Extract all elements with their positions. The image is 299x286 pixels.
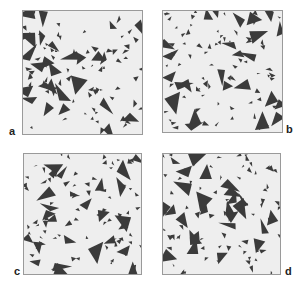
panel-label-a: a: [9, 126, 15, 137]
panel-label-b: b: [286, 124, 293, 135]
random-triangles-d: [163, 154, 280, 274]
panel-c: [23, 153, 142, 275]
panel-b: [162, 10, 283, 133]
panel-d: [162, 153, 281, 275]
panel-label-c: c: [14, 266, 20, 277]
random-triangles-c: [24, 154, 141, 274]
random-triangles-b: [163, 11, 282, 132]
panel-label-d: d: [285, 266, 292, 277]
panel-a: [22, 10, 143, 135]
random-triangles-a: [23, 11, 142, 134]
